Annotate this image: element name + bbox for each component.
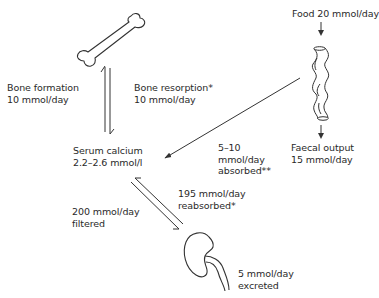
filtered-label: 200 mmol/day filtered: [72, 206, 140, 229]
bone-exchange-arrows: [101, 66, 114, 134]
serum-calcium-range: 2.2–2.6 mmol/l: [73, 157, 143, 169]
food-intake-text: Food 20 mmol/day: [292, 8, 379, 20]
absorbed-unit: mmol/day: [218, 154, 271, 166]
filtered-value: 200 mmol/day: [72, 206, 140, 218]
bone-formation-label: Bone formation 10 mmol/day: [7, 82, 79, 105]
bone-formation-title: Bone formation: [7, 82, 79, 94]
absorbed-text: absorbed**: [218, 165, 271, 177]
excreted-text: excreted: [238, 280, 294, 292]
bone-resorption-label: Bone resorption* 10 mmol/day: [134, 82, 213, 105]
bone-formation-value: 10 mmol/day: [7, 94, 79, 106]
filtered-text: filtered: [72, 218, 140, 230]
food-arrow: [318, 22, 324, 36]
faecal-output-value: 15 mmol/day: [291, 154, 354, 166]
kidney-icon: [184, 233, 229, 291]
intestine-icon: [312, 47, 328, 121]
bone-resorption-title: Bone resorption*: [134, 82, 213, 94]
food-intake-label: Food 20 mmol/day: [292, 8, 379, 20]
faecal-output-title: Faecal output: [291, 142, 354, 154]
serum-calcium-label: Serum calcium 2.2–2.6 mmol/l: [73, 145, 143, 168]
faecal-arrow: [318, 125, 324, 139]
reabsorbed-label: 195 mmol/day reabsorbed*: [178, 188, 246, 211]
excreted-label: 5 mmol/day excreted: [238, 268, 294, 291]
absorbed-range: 5–10: [218, 142, 271, 154]
absorbed-label: 5–10 mmol/day absorbed**: [218, 142, 271, 177]
bone-resorption-value: 10 mmol/day: [134, 94, 213, 106]
reabsorbed-value: 195 mmol/day: [178, 188, 246, 200]
excreted-value: 5 mmol/day: [238, 268, 294, 280]
reabsorbed-text: reabsorbed*: [178, 200, 246, 212]
faecal-output-label: Faecal output 15 mmol/day: [291, 142, 354, 165]
serum-calcium-title: Serum calcium: [73, 145, 143, 157]
bone-icon: [77, 14, 144, 67]
